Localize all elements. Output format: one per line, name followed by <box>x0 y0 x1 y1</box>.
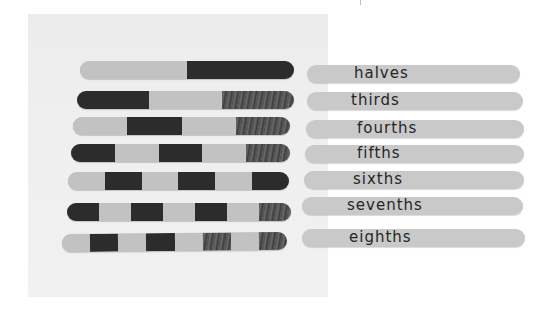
fraction-stick-fifths <box>71 144 290 162</box>
segment <box>182 117 236 135</box>
segment <box>115 144 159 162</box>
segment <box>62 234 90 252</box>
label-text: halves <box>354 63 409 83</box>
segment <box>203 232 231 250</box>
segment <box>73 117 127 135</box>
fraction-stick-thirds <box>77 91 294 109</box>
segment <box>259 232 287 250</box>
segment <box>252 172 289 190</box>
segment <box>127 117 181 135</box>
segment <box>142 172 179 190</box>
fraction-stick-sevenths <box>67 203 291 221</box>
segment <box>236 117 290 135</box>
label-text: sixths <box>353 169 403 189</box>
label-stick-thirds: thirds <box>307 92 523 110</box>
segment <box>71 144 115 162</box>
segment <box>202 144 246 162</box>
segment <box>146 233 174 251</box>
segment <box>187 61 294 79</box>
segment <box>77 91 149 109</box>
segment <box>149 91 221 109</box>
segment <box>246 144 290 162</box>
label-stick-fourths: fourths <box>306 120 524 138</box>
label-text: fourths <box>357 118 417 138</box>
segment <box>231 232 259 250</box>
segment <box>227 203 259 221</box>
segment <box>222 91 294 109</box>
segment <box>118 233 146 251</box>
segment <box>131 203 163 221</box>
segment <box>90 234 118 252</box>
segment <box>215 172 252 190</box>
label-stick-fifths: fifths <box>305 145 524 163</box>
segment <box>163 203 195 221</box>
segment <box>67 203 99 221</box>
label-text: sevenths <box>347 195 423 215</box>
fraction-stick-eighths <box>62 232 287 252</box>
fraction-stick-fourths <box>73 117 290 135</box>
label-text: eighths <box>349 227 412 247</box>
label-stick-halves: halves <box>307 65 520 83</box>
segment <box>159 144 203 162</box>
segment <box>174 233 202 251</box>
label-text: fifths <box>357 143 401 163</box>
label-text: thirds <box>351 90 400 110</box>
segment <box>68 172 105 190</box>
segment <box>195 203 227 221</box>
fraction-stick-sixths <box>68 172 289 190</box>
segment <box>105 172 142 190</box>
segment <box>178 172 215 190</box>
label-stick-eighths: eighths <box>302 229 525 247</box>
stray-mark <box>360 0 361 5</box>
fraction-stick-halves <box>80 61 294 79</box>
segment <box>259 203 291 221</box>
label-stick-sixths: sixths <box>304 171 524 189</box>
segment <box>99 203 131 221</box>
segment <box>80 61 187 79</box>
label-stick-sevenths: sevenths <box>302 197 523 215</box>
